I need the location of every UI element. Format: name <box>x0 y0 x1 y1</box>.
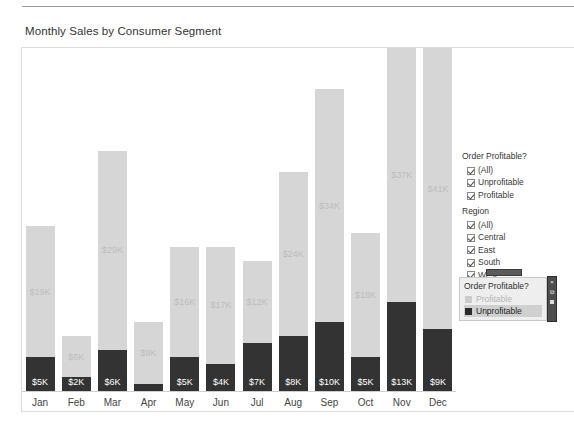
bar-value-label: $24K <box>279 249 308 259</box>
bar-value-label: $4K <box>206 377 235 387</box>
x-tick-jul: Jul <box>243 397 272 408</box>
bar-segment-profitable[interactable]: $29K <box>98 151 127 350</box>
x-tick-dec: Dec <box>423 397 452 408</box>
filter-item-label: (All) <box>478 166 493 175</box>
checkbox-checked-icon[interactable] <box>467 246 475 254</box>
bar-aug[interactable]: $24K$8K <box>279 171 308 391</box>
bar-segment-profitable[interactable]: $16K <box>170 247 199 357</box>
bar-segment-profitable[interactable]: $19K <box>26 226 55 356</box>
bar-value-label: $34K <box>315 201 344 211</box>
bar-segment-unprofitable[interactable]: $5K <box>26 357 55 391</box>
bar-segment-profitable[interactable]: $17K <box>206 247 235 364</box>
filter-item-east[interactable]: East <box>462 244 552 257</box>
filter-drag-handle[interactable] <box>486 269 522 276</box>
legend-card-rows[interactable]: ProfitableUnprofitable <box>464 293 542 317</box>
legend-item-unprofitable[interactable]: Unprofitable <box>464 305 542 317</box>
bar-segment-unprofitable[interactable]: $6K <box>98 350 127 391</box>
bar-value-label: $5K <box>351 377 380 387</box>
legend-item-profitable[interactable]: Profitable <box>464 293 542 305</box>
filter-item-all[interactable]: (All) <box>462 219 552 232</box>
checkbox-checked-icon[interactable] <box>467 259 475 267</box>
bar-value-label: $9K <box>423 377 452 387</box>
bar-segment-unprofitable[interactable]: $9K <box>423 329 452 391</box>
bar-segment-unprofitable[interactable] <box>134 384 163 391</box>
bar-segment-profitable[interactable]: $12K <box>243 261 272 343</box>
bar-value-label: $18K <box>351 290 380 300</box>
bar-segment-profitable[interactable]: $24K <box>279 172 308 337</box>
x-tick-may: May <box>170 397 199 408</box>
x-tick-feb: Feb <box>62 397 91 408</box>
bar-jul[interactable]: $12K$7K <box>243 261 272 391</box>
filter-item-all[interactable]: (All) <box>462 164 552 177</box>
x-axis-tick-labels: JanFebMarAprMayJunJulAugSepOctNovDec <box>22 394 456 412</box>
bar-dec[interactable]: $41K$9K <box>423 48 452 391</box>
x-tick-jan: Jan <box>26 397 55 408</box>
color-legend-card[interactable]: Order Profitable? ProfitableUnprofitable <box>459 277 547 321</box>
bar-segment-unprofitable[interactable]: $8K <box>279 336 308 391</box>
bar-segment-profitable[interactable]: $41K <box>423 48 452 329</box>
bar-segment-profitable[interactable]: $18K <box>351 233 380 356</box>
legend-item-label: Unprofitable <box>476 306 522 316</box>
bar-segment-profitable[interactable]: $9K <box>134 322 163 384</box>
filter-group-title: Region <box>462 207 552 216</box>
checkbox-checked-icon[interactable] <box>467 234 475 242</box>
bar-feb[interactable]: $6K$2K <box>62 336 91 391</box>
bar-segment-unprofitable[interactable]: $5K <box>170 357 199 391</box>
bar-value-label: $5K <box>26 377 55 387</box>
legend-color-swatch <box>465 296 472 303</box>
x-tick-sep: Sep <box>315 397 344 408</box>
checkbox-checked-icon[interactable] <box>467 221 475 229</box>
bar-segment-unprofitable[interactable]: $5K <box>351 357 380 391</box>
close-icon[interactable]: × <box>548 278 556 286</box>
filter-item-label: Unprofitable <box>478 178 524 187</box>
bar-segment-profitable[interactable]: $34K <box>315 89 344 322</box>
filter-item-central[interactable]: Central <box>462 232 552 245</box>
bar-apr[interactable]: $9K <box>134 322 163 391</box>
bar-chart-plot-area[interactable]: $19K$5K$6K$2K$29K$6K$9K$16K$5K$17K$4K$12… <box>22 48 456 391</box>
keep-only-icon[interactable]: ⧉ <box>548 288 556 296</box>
bar-mar[interactable]: $29K$6K <box>98 151 127 391</box>
x-tick-mar: Mar <box>98 397 127 408</box>
bar-value-label: $17K <box>206 300 235 310</box>
filter-item-label: Central <box>478 233 505 242</box>
x-tick-nov: Nov <box>387 397 416 408</box>
legend-card-toolbar[interactable]: × ⧉ <box>547 276 557 322</box>
bar-segment-unprofitable[interactable]: $10K <box>315 322 344 391</box>
bar-segment-unprofitable[interactable]: $4K <box>206 364 235 391</box>
checkbox-checked-icon[interactable] <box>467 192 475 200</box>
bar-jun[interactable]: $17K$4K <box>206 247 235 391</box>
filter-panel[interactable]: Order Profitable?(All)UnprofitableProfit… <box>462 152 552 287</box>
bar-segment-unprofitable[interactable]: $7K <box>243 343 272 391</box>
bar-value-label: $41K <box>423 184 452 194</box>
bar-segment-unprofitable[interactable]: $13K <box>387 302 416 391</box>
bar-segment-profitable[interactable]: $37K <box>387 48 416 302</box>
filter-item-unprofitable[interactable]: Unprofitable <box>462 177 552 190</box>
x-tick-apr: Apr <box>134 397 163 408</box>
filter-item-profitable[interactable]: Profitable <box>462 189 552 202</box>
bar-value-label: $37K <box>387 170 416 180</box>
legend-color-swatch <box>465 308 472 315</box>
top-divider <box>22 6 574 7</box>
filter-group-title: Order Profitable? <box>462 152 552 161</box>
bar-value-label: $29K <box>98 245 127 255</box>
bar-may[interactable]: $16K$5K <box>170 247 199 391</box>
bar-nov[interactable]: $37K$13K <box>387 48 416 391</box>
bar-value-label: $6K <box>98 377 127 387</box>
x-tick-jun: Jun <box>206 397 235 408</box>
filter-group-order-profitable: Order Profitable?(All)UnprofitableProfit… <box>462 152 552 202</box>
x-axis-line <box>22 391 456 392</box>
bar-value-label: $19K <box>26 287 55 297</box>
bar-value-label: $5K <box>170 377 199 387</box>
checkbox-checked-icon[interactable] <box>467 179 475 187</box>
page-title: Monthly Sales by Consumer Segment <box>25 25 221 37</box>
bar-segment-profitable[interactable]: $6K <box>62 336 91 377</box>
bar-segment-unprofitable[interactable]: $2K <box>62 377 91 391</box>
exclude-icon[interactable] <box>550 300 554 304</box>
bar-jan[interactable]: $19K$5K <box>26 226 55 391</box>
bar-oct[interactable]: $18K$5K <box>351 233 380 391</box>
checkbox-checked-icon[interactable] <box>467 167 475 175</box>
filter-item-south[interactable]: South <box>462 257 552 270</box>
bar-value-label: $7K <box>243 377 272 387</box>
filter-item-label: South <box>478 258 500 267</box>
bar-sep[interactable]: $34K$10K <box>315 89 344 391</box>
